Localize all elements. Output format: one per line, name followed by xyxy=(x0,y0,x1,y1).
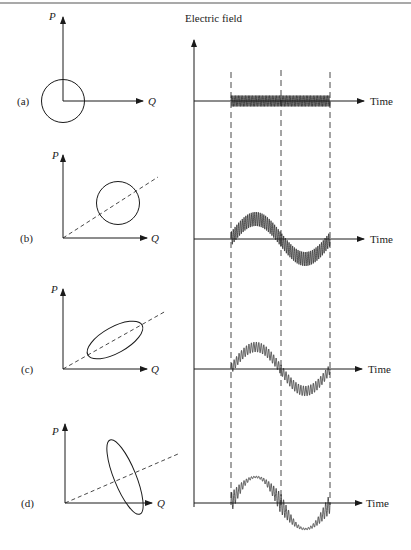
phase-diagram-c xyxy=(63,289,166,369)
diagram-canvas xyxy=(0,0,411,550)
p-label-a: P xyxy=(49,10,56,22)
electric-field-label: Electric field xyxy=(185,12,242,24)
signal-a xyxy=(231,96,330,107)
panel-tag-d: (d) xyxy=(21,497,34,509)
phase-diagram-a xyxy=(42,17,144,123)
panel-tag-b: (b) xyxy=(20,232,33,244)
q-label-a: Q xyxy=(148,95,156,107)
q-label-b: Q xyxy=(151,232,159,244)
panel-tag-c: (c) xyxy=(21,363,33,375)
time-label-d: Time xyxy=(366,497,389,509)
figure: Electric field P Q (a) P Q (b) P Q (c) P… xyxy=(0,0,411,550)
time-label-b: Time xyxy=(370,233,393,245)
q-label-c: Q xyxy=(151,363,159,375)
p-label-c: P xyxy=(51,283,58,295)
electric-field-plot xyxy=(194,40,364,530)
p-label-b: P xyxy=(52,149,59,161)
time-label-a: Time xyxy=(370,95,393,107)
q-label-d: Q xyxy=(157,497,165,509)
time-label-c: Time xyxy=(368,363,391,375)
panel-tag-a: (a) xyxy=(17,95,29,107)
p-label-d: P xyxy=(52,425,59,437)
phase-diagram-b xyxy=(63,155,158,238)
